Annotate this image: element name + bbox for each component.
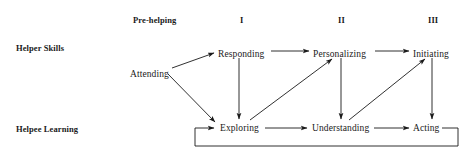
node-acting: Acting — [413, 124, 439, 134]
node-responding: Responding — [218, 50, 264, 60]
phase-header-3: III — [428, 16, 438, 25]
phase-header-2: II — [338, 16, 345, 25]
edge-understanding-to-initiating — [349, 59, 425, 120]
row-label-helpee-learning: Helpee Learning — [16, 125, 78, 134]
node-exploring: Exploring — [220, 124, 259, 134]
diagram-canvas: Pre-helping I II III Helper Skills Helpe… — [0, 0, 468, 156]
row-label-helper-skills: Helper Skills — [16, 44, 64, 53]
node-initiating: Initiating — [413, 50, 449, 60]
edge-attending-to-exploring — [168, 74, 215, 122]
edge-attending-to-responding — [172, 53, 214, 68]
node-understanding: Understanding — [312, 124, 369, 134]
node-personalizing: Personalizing — [313, 50, 366, 60]
phase-header-1: I — [240, 16, 243, 25]
node-attending: Attending — [130, 70, 169, 80]
phase-header-pre-helping: Pre-helping — [133, 16, 176, 25]
edge-exploring-to-understanding-up-personalizing — [250, 59, 332, 120]
